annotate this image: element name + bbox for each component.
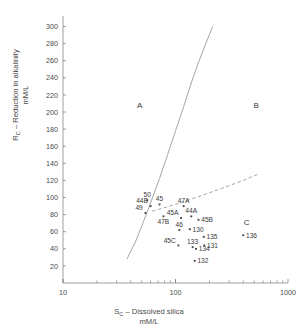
data-point-133[interactable]: [192, 246, 194, 248]
data-point-label-130[interactable]: 130: [193, 226, 204, 233]
x-axis-title-units: mM/L: [0, 317, 298, 326]
data-point-131[interactable]: [203, 244, 205, 246]
data-point-134[interactable]: [195, 248, 197, 250]
data-point-45C[interactable]: [177, 244, 179, 246]
data-point-44B[interactable]: [150, 205, 152, 207]
scatter-plot-canvas: 2040608010012014016018020022024026028030…: [0, 0, 298, 335]
y-tick-label-40: 40: [50, 244, 58, 253]
y-tick-label-60: 60: [50, 227, 58, 236]
y-tick-label-80: 80: [50, 210, 58, 219]
data-point-label-46[interactable]: 46: [176, 221, 184, 228]
data-point-135[interactable]: [203, 236, 205, 238]
data-point-label-45A[interactable]: 45A: [167, 209, 179, 216]
region-label-C: C: [244, 218, 250, 227]
data-point-45[interactable]: [159, 203, 161, 205]
data-point-label-45C[interactable]: 45C: [164, 237, 176, 244]
data-point-label-131[interactable]: 131: [207, 242, 218, 249]
chart-root: 2040608010012014016018020022024026028030…: [0, 0, 298, 335]
data-point-136[interactable]: [242, 234, 244, 236]
y-tick-label-280: 280: [46, 39, 58, 48]
curve-boundary-B-C: [152, 174, 260, 212]
data-point-label-133[interactable]: 133: [187, 238, 198, 245]
y-tick-label-260: 260: [46, 56, 58, 65]
data-point-45B[interactable]: [198, 219, 200, 221]
data-point-label-45[interactable]: 45: [156, 195, 164, 202]
data-point-label-49[interactable]: 49: [135, 204, 143, 211]
data-point-46[interactable]: [178, 229, 180, 231]
y-tick-label-180: 180: [46, 125, 58, 134]
y-tick-label-200: 200: [46, 108, 58, 117]
data-point-132[interactable]: [194, 260, 196, 262]
y-axis-title: RC – Reduction in alkalinity mM/L: [11, 15, 33, 175]
y-tick-label-240: 240: [46, 73, 58, 82]
curve-boundary-A-B: [127, 27, 213, 260]
x-axis-title-subscript: C: [119, 311, 123, 317]
data-point-45A[interactable]: [180, 217, 182, 219]
data-point-label-136[interactable]: 136: [246, 232, 257, 239]
data-point-label-45B[interactable]: 45B: [201, 216, 213, 223]
data-point-130[interactable]: [189, 228, 191, 230]
data-point-label-47B[interactable]: 47B: [157, 218, 169, 225]
x-tick-label-1000: 1000: [280, 288, 296, 297]
data-point-47A[interactable]: [183, 205, 185, 207]
data-point-49[interactable]: [144, 212, 146, 214]
data-point-label-135[interactable]: 135: [206, 233, 217, 240]
x-axis-title: SC – Dissolved silica mM/L: [0, 307, 298, 327]
region-label-A: A: [137, 101, 143, 110]
y-tick-label-100: 100: [46, 193, 58, 202]
x-tick-label-10: 10: [59, 288, 67, 297]
y-axis-title-line1: RC – Reduction in alkalinity: [11, 49, 20, 140]
y-tick-label-20: 20: [50, 262, 58, 271]
x-tick-label-100: 100: [170, 288, 182, 297]
region-label-B: B: [253, 101, 258, 110]
y-tick-label-140: 140: [46, 159, 58, 168]
y-tick-label-160: 160: [46, 142, 58, 151]
data-point-label-44A[interactable]: 44A: [185, 207, 197, 214]
y-tick-label-220: 220: [46, 91, 58, 100]
data-point-label-132[interactable]: 132: [197, 257, 208, 264]
y-tick-label-300: 300: [46, 22, 58, 31]
y-axis-title-units: mM/L: [21, 15, 30, 175]
y-axis-title-subscript: C: [15, 131, 21, 135]
data-point-label-47A[interactable]: 47A: [178, 197, 190, 204]
x-axis-title-line1: SC – Dissolved silica: [114, 307, 183, 316]
data-point-44A[interactable]: [190, 215, 192, 217]
y-tick-label-120: 120: [46, 176, 58, 185]
